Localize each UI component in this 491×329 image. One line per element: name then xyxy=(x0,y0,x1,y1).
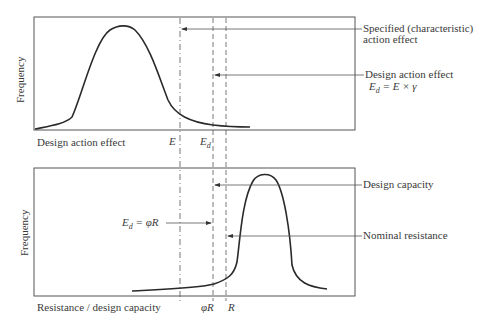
arrowhead-icon xyxy=(214,73,220,77)
phiR-marker: φR xyxy=(201,301,214,313)
Ed-sub: d xyxy=(207,141,211,150)
design-capacity-label: Design capacity xyxy=(363,178,434,190)
arrowhead-icon xyxy=(227,234,233,238)
Ed-main: E xyxy=(200,135,207,147)
diagram-canvas xyxy=(0,0,491,329)
nominal-resistance-label: Nominal resistance xyxy=(363,229,448,241)
E-marker: E xyxy=(169,135,176,147)
design-effect-label: Design action effect xyxy=(365,68,453,80)
bottom-ylabel: Frequency xyxy=(18,210,30,256)
specified-label-line2: action effect xyxy=(363,33,417,45)
resistance-curve xyxy=(132,174,327,291)
top-xlabel: Design action effect xyxy=(37,136,125,148)
arrowhead-icon xyxy=(214,183,220,187)
bottom-xlabel: Resistance / design capacity xyxy=(37,301,161,313)
top-panel-frame xyxy=(34,17,355,130)
Ed-marker: Ed xyxy=(200,135,211,152)
Ed-phiR-equation: Ed = φR xyxy=(122,216,158,233)
arrowhead-icon xyxy=(181,27,187,31)
top-ylabel: Frequency xyxy=(14,57,26,103)
R-marker: R xyxy=(228,301,235,313)
bottom-panel-frame xyxy=(34,168,355,296)
action-effect-curve xyxy=(35,26,250,129)
design-effect-formula: Ed = E × γ xyxy=(369,80,417,97)
arrowhead-icon xyxy=(206,221,212,225)
